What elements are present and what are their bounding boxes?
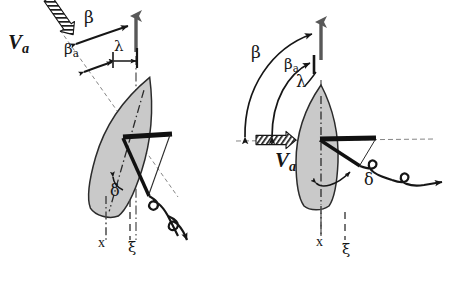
left-xi-label: ξ — [128, 240, 136, 255]
right-x-label: x — [316, 235, 323, 249]
right-beta-label: β — [251, 44, 261, 61]
left-lambda-label: λ — [114, 39, 124, 54]
left-diagram — [41, 0, 187, 240]
right-va-v: V — [275, 148, 289, 172]
left-va-label: Va — [8, 32, 29, 55]
right-diagram — [236, 22, 442, 240]
left-strut-line-secondary — [149, 135, 170, 194]
right-tether-loop-2 — [392, 173, 442, 185]
left-x-label: x — [98, 236, 105, 250]
right-lambda-arc — [305, 72, 316, 86]
left-delta-label: δ — [110, 183, 120, 199]
left-beta-a-sub: a — [73, 48, 79, 59]
right-xi-label: ξ — [342, 242, 350, 257]
left-beta-label: β — [84, 9, 94, 26]
right-rudder-bar — [320, 138, 376, 139]
left-beta-a-label: βa — [64, 42, 79, 59]
right-delta-label: δ — [364, 172, 374, 188]
right-va-sub: a — [289, 158, 296, 174]
right-va-label: Va — [275, 150, 296, 173]
right-wind-arrow-hatched — [256, 131, 296, 148]
right-beta-a-greek: β — [284, 55, 293, 73]
left-beta-a-greek: β — [64, 40, 73, 58]
left-va-v: V — [8, 30, 22, 54]
left-rudder-bar — [123, 134, 172, 137]
right-lambda-label: λ — [296, 74, 306, 90]
left-va-sub: a — [22, 40, 29, 56]
left-beta-a-arc — [84, 62, 112, 72]
left-wind-arrow-hatched — [41, 0, 80, 40]
